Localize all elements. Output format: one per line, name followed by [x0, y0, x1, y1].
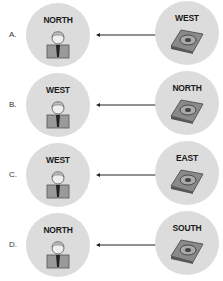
option-row-b[interactable]: B. WEST NORTH	[0, 70, 223, 140]
left-node: NORTH	[26, 3, 90, 67]
option-label: C.	[9, 170, 17, 179]
hard-drive-icon	[169, 166, 205, 194]
right-node-label: SOUTH	[155, 223, 219, 233]
left-node-label: NORTH	[26, 15, 90, 25]
hard-drive-icon	[169, 96, 205, 124]
option-label: B.	[9, 100, 17, 109]
arrow-left-icon	[96, 33, 156, 37]
left-node: WEST	[26, 143, 90, 207]
person-icon	[43, 29, 73, 59]
left-node-label: WEST	[26, 155, 90, 165]
arrow-left-icon	[96, 243, 156, 247]
left-node-label: NORTH	[26, 225, 90, 235]
left-node: WEST	[26, 73, 90, 137]
right-node: NORTH	[155, 71, 219, 135]
left-node: NORTH	[26, 213, 90, 277]
option-row-d[interactable]: D. NORTH SOUTH	[0, 210, 223, 280]
hard-drive-icon	[169, 236, 205, 264]
right-node-label: WEST	[155, 13, 219, 23]
option-label: D.	[9, 240, 17, 249]
arrow-left-icon	[96, 173, 156, 177]
person-icon	[43, 239, 73, 269]
right-node: EAST	[155, 141, 219, 205]
right-node: SOUTH	[155, 211, 219, 275]
option-row-a[interactable]: A. NORTH WEST	[0, 0, 223, 70]
person-icon	[43, 99, 73, 129]
right-node: WEST	[155, 1, 219, 65]
hard-drive-icon	[169, 26, 205, 54]
right-node-label: EAST	[155, 153, 219, 163]
person-icon	[43, 169, 73, 199]
arrow-left-icon	[96, 103, 156, 107]
left-node-label: WEST	[26, 85, 90, 95]
option-label: A.	[9, 30, 17, 39]
right-node-label: NORTH	[155, 83, 219, 93]
option-row-c[interactable]: C. WEST EAST	[0, 140, 223, 210]
